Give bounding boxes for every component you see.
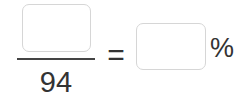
percent-result-input-box[interactable] [136,23,206,70]
fraction-bar [17,58,95,60]
numerator-input-box[interactable] [22,4,91,52]
percent-sign: % [210,30,234,66]
denominator-value: 94 [17,66,95,98]
equals-sign: = [105,37,127,73]
